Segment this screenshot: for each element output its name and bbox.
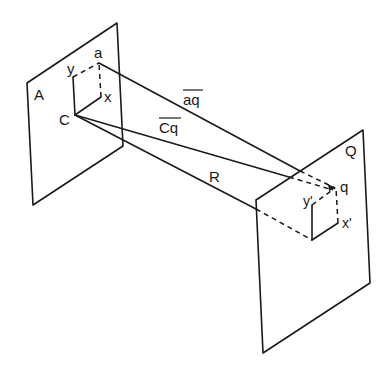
axis-c-x xyxy=(75,97,101,115)
dashed-y-a xyxy=(73,63,99,77)
label-x: x xyxy=(104,88,112,105)
label-y-prime: y' xyxy=(303,193,313,209)
label-ray-aq: aq xyxy=(183,91,200,108)
label-plane-q: Q xyxy=(345,142,357,159)
diagram-svg: A a y x C aq Cq R Q q y' x' xyxy=(0,0,382,374)
label-c: C xyxy=(59,111,70,128)
ray-cq xyxy=(75,115,289,177)
dashed-x-a xyxy=(99,63,101,97)
label-y: y xyxy=(67,60,75,77)
label-plane-a: A xyxy=(34,86,44,103)
label-ray-r: R xyxy=(209,168,220,185)
axis-c-y xyxy=(73,77,75,115)
projection-diagram: A a y x C aq Cq R Q q y' x' xyxy=(0,0,382,374)
plane-q xyxy=(256,130,370,353)
label-x-prime: x' xyxy=(342,215,352,231)
label-point-q: q xyxy=(340,178,348,195)
ray-aq xyxy=(99,63,300,171)
label-point-a: a xyxy=(94,44,103,61)
label-ray-cq: Cq xyxy=(159,119,178,136)
